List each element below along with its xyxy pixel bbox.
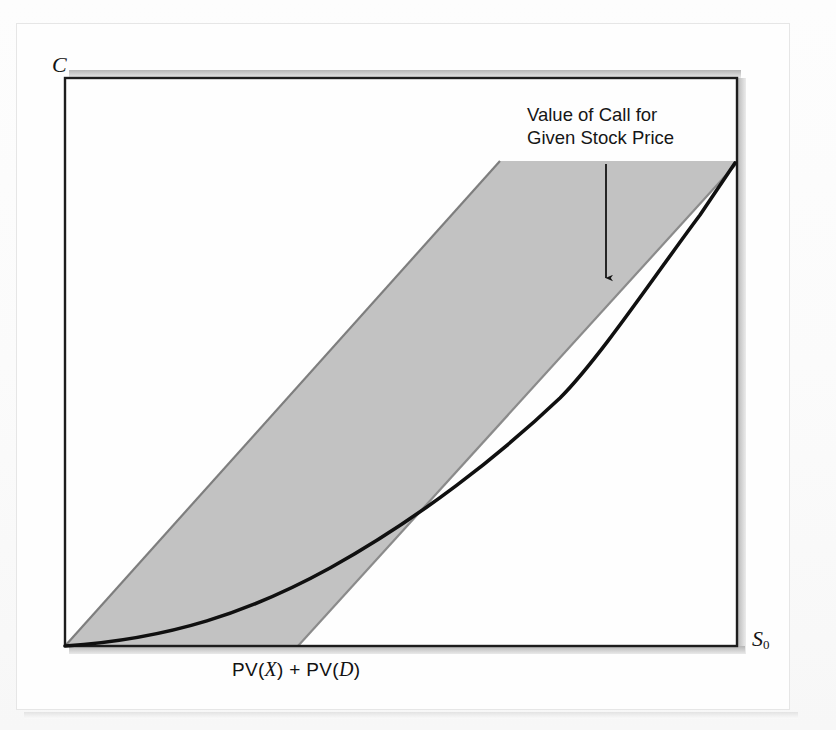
figure-root: C S0 Value of Call for Given Stock Price… [0,0,836,730]
x-caption-prefix: PV( [232,659,265,680]
x-axis-caption: PV(X) + PV(D) [232,658,360,681]
plot-box-right-shadow [737,78,746,654]
call-value-callout-label: Value of Call for Given Stock Price [527,103,717,149]
x-axis-label-subscript: 0 [763,637,770,652]
x-axis-label-base: S [752,626,763,651]
x-caption-suffix: ) [354,659,361,680]
x-caption-var-d: D [339,658,354,680]
shaded-feasible-region [65,161,737,646]
y-axis-label: C [52,52,67,78]
x-axis-label: S0 [752,626,770,653]
x-caption-var-x: X [265,658,278,680]
x-caption-middle: ) + PV( [277,659,339,680]
